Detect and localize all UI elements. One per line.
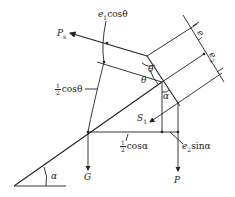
label-half-cos-alpha: 12cosα [120, 140, 148, 153]
label-theta-lower: θ [141, 76, 146, 85]
e1cos-leader [88, 21, 106, 132]
label-theta-upper: θ [148, 65, 153, 74]
s1-force-arrow [150, 103, 178, 122]
ext-line-2 [162, 54, 204, 82]
ps-force-arrow [70, 33, 147, 56]
alpha-base-arc [44, 167, 47, 186]
label-g: G [84, 173, 91, 182]
label-alpha-base: α [51, 172, 57, 181]
label-e1-cos-theta: e1cosθ [98, 10, 128, 21]
label-ps: Ps [57, 29, 66, 40]
label-p: P [174, 176, 180, 185]
dim-tick-3 [217, 68, 223, 72]
ext-line-1 [147, 24, 197, 56]
label-e2-sin-alpha: e2sinα [182, 142, 211, 153]
ext-line-3 [178, 73, 222, 103]
label-alpha-upper: α [163, 92, 169, 101]
label-s1: S1 [137, 114, 147, 125]
label-half-cos-theta: 12cosθ [55, 83, 82, 96]
dim-tick-1 [193, 22, 199, 26]
